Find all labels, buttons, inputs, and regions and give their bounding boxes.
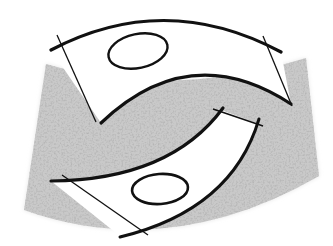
diagram-canvas <box>0 0 333 246</box>
banner-diagram <box>0 0 333 246</box>
